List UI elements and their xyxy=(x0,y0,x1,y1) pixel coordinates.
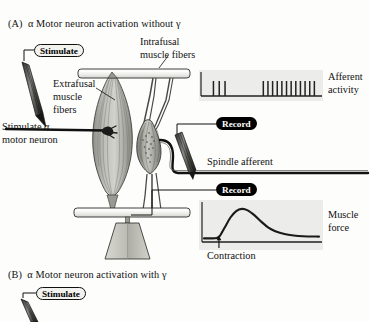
figure-root: (A) α Motor neuron activation without γ xyxy=(0,0,370,322)
record-button-afferent[interactable]: Record xyxy=(216,117,257,130)
extrafusal-label-line1: Extrafusal xyxy=(53,78,95,90)
extrafusal-label-line2: muscle xyxy=(53,91,82,103)
muscle-force-trace xyxy=(199,200,323,250)
muscle-force-svg xyxy=(199,200,323,250)
stimulate-alpha-label-line1: Stimulate α xyxy=(2,121,49,133)
recording-electrode-afferent xyxy=(175,124,216,180)
spindle-afferent-label: Spindle afferent xyxy=(207,156,273,168)
contraction-label: Contraction xyxy=(207,250,256,262)
stimulating-electrode-a xyxy=(22,50,46,127)
bottom-support-bar xyxy=(74,208,190,217)
stimulate-alpha-label-line2: motor neuron xyxy=(2,134,58,146)
afferent-activity-label-line2: activity xyxy=(328,84,359,96)
extrafusal-label-line3: fibers xyxy=(53,104,76,116)
afferent-raster-svg xyxy=(199,70,323,101)
hanging-weight xyxy=(105,217,150,259)
stimulate-button-a[interactable]: Stimulate xyxy=(34,44,84,57)
afferent-activity-label-line1: Afferent xyxy=(328,71,363,83)
afferent-activity-trace xyxy=(199,70,323,101)
stimulate-button-b[interactable]: Stimulate xyxy=(36,287,86,300)
top-support-bar xyxy=(78,69,190,78)
record-button-force[interactable]: Record xyxy=(216,183,257,196)
intrafusal-label-line2: muscle fibers xyxy=(140,49,195,61)
muscle-force-label-line1: Muscle xyxy=(328,209,358,221)
intrafusal-label-line1: Intrafusal xyxy=(140,36,179,48)
extrafusal-muscle-fibers xyxy=(93,72,133,210)
panel-b-electrode xyxy=(21,293,38,322)
panel-b-title: (B) α Motor neuron activation with γ xyxy=(8,269,167,281)
muscle-force-label-line2: force xyxy=(328,222,349,234)
